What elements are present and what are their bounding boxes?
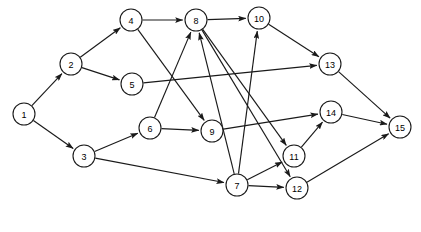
graph-node-circle-11[interactable] (283, 145, 305, 167)
graph-node-10[interactable]: 10 (248, 7, 270, 29)
graph-edge-2-to-5 (82, 68, 120, 80)
graph-node-13[interactable]: 13 (319, 53, 341, 75)
graph-node-circle-12[interactable] (286, 177, 308, 199)
graph-node-3[interactable]: 3 (73, 145, 95, 167)
graph-node-9[interactable]: 9 (201, 120, 223, 142)
graph-node-5[interactable]: 5 (121, 73, 143, 95)
graph-edge-7-to-12 (248, 186, 283, 188)
graph-edge-7-to-11 (247, 162, 282, 180)
graph-node-4[interactable]: 4 (120, 9, 142, 31)
graph-node-circle-3[interactable] (73, 145, 95, 167)
graph-node-circle-15[interactable] (389, 116, 411, 138)
graph-node-circle-4[interactable] (120, 9, 142, 31)
graph-diagram: 123456789101112131415 (0, 0, 421, 232)
graph-node-circle-13[interactable] (319, 53, 341, 75)
graph-edge-12-to-15 (307, 134, 389, 182)
graph-node-2[interactable]: 2 (60, 53, 82, 75)
graph-node-circle-10[interactable] (248, 7, 270, 29)
graph-svg-surface: 123456789101112131415 (0, 0, 421, 232)
graph-edge-8-to-12 (202, 30, 290, 177)
graph-edge-4-to-9 (138, 29, 204, 120)
graph-node-circle-1[interactable] (13, 103, 35, 125)
graph-edge-3-to-7 (95, 158, 224, 182)
graph-edge-1-to-3 (33, 121, 73, 149)
graph-edge-11-to-14 (301, 122, 322, 147)
graph-edge-10-to-13 (269, 24, 319, 57)
graph-node-11[interactable]: 11 (283, 145, 305, 167)
graph-edge-6-to-8 (155, 32, 191, 117)
graph-edge-13-to-15 (339, 72, 391, 118)
graph-edge-7-to-10 (239, 31, 258, 174)
graph-edge-9-to-14 (223, 114, 318, 129)
graph-node-12[interactable]: 12 (286, 177, 308, 199)
graph-node-circle-9[interactable] (201, 120, 223, 142)
graph-node-15[interactable]: 15 (389, 116, 411, 138)
graph-node-circle-2[interactable] (60, 53, 82, 75)
nodes-layer: 123456789101112131415 (13, 7, 411, 199)
graph-node-circle-7[interactable] (226, 174, 248, 196)
graph-node-circle-5[interactable] (121, 73, 143, 95)
graph-node-8[interactable]: 8 (185, 9, 207, 31)
graph-edge-14-to-15 (342, 114, 387, 124)
graph-edge-2-to-4 (80, 28, 120, 57)
graph-edge-1-to-2 (32, 74, 62, 106)
graph-edge-8-to-10 (207, 18, 245, 19)
graph-node-circle-6[interactable] (139, 117, 161, 139)
graph-node-circle-8[interactable] (185, 9, 207, 31)
graph-node-14[interactable]: 14 (320, 101, 342, 123)
graph-node-6[interactable]: 6 (139, 117, 161, 139)
graph-node-1[interactable]: 1 (13, 103, 35, 125)
graph-edge-6-to-9 (161, 129, 198, 131)
graph-node-7[interactable]: 7 (226, 174, 248, 196)
graph-node-circle-14[interactable] (320, 101, 342, 123)
graph-edge-3-to-6 (95, 133, 138, 151)
